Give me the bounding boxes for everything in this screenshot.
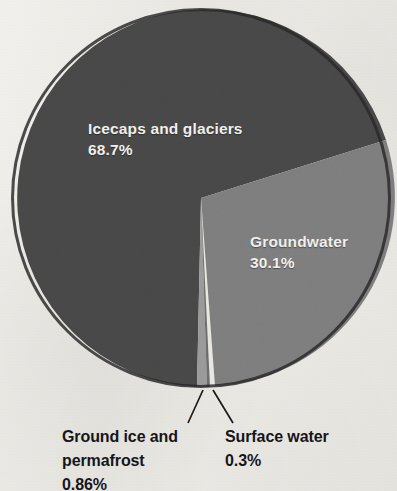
- callout-leader-lines-group: [188, 390, 233, 423]
- slice-label-groundwater-name: Groundwater: [250, 233, 348, 250]
- leader-line-surface-water: [213, 390, 233, 423]
- slice-label-icecaps-name: Icecaps and glaciers: [88, 120, 243, 137]
- callout-surface-water-line1: Surface water: [225, 425, 329, 449]
- callout-label-ground-ice-and-permafrost: Ground ice and permafrost 0.86%: [62, 425, 178, 491]
- pie-slices-group: [13, 9, 395, 387]
- callout-label-surface-water: Surface water 0.3%: [225, 425, 329, 473]
- callout-ground-ice-line1: Ground ice and: [62, 425, 178, 449]
- callout-ground-ice-percent: 0.86%: [62, 473, 178, 491]
- slice-label-icecaps-and-glaciers: Icecaps and glaciers 68.7%: [88, 118, 243, 160]
- slice-label-groundwater-percent: 30.1%: [250, 252, 348, 273]
- callout-surface-water-percent: 0.3%: [225, 449, 329, 473]
- callout-ground-ice-line2: permafrost: [62, 449, 178, 473]
- leader-line-ground-ice: [188, 390, 203, 423]
- slice-label-groundwater: Groundwater 30.1%: [250, 231, 348, 273]
- pie-chart-figure: Icecaps and glaciers 68.7% Groundwater 3…: [0, 0, 397, 491]
- slice-label-icecaps-percent: 68.7%: [88, 139, 243, 160]
